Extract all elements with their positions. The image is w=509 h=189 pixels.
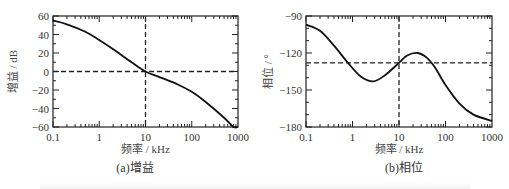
x-tick-label: 100 xyxy=(437,131,454,143)
phase-x-axis-label: 频率 / kHz xyxy=(375,142,424,155)
figure: 0.11101001000 6040200−20−40−60 频率 / kHz … xyxy=(0,0,509,189)
x-tick-label: 10 xyxy=(140,131,152,143)
gain-x-axis-label: 频率 / kHz xyxy=(121,142,170,155)
y-tick-label: −20 xyxy=(32,84,50,96)
y-tick-label: −60 xyxy=(32,121,50,133)
y-tick-label: −150 xyxy=(279,84,302,96)
y-tick-label: 40 xyxy=(38,29,50,41)
x-tick-label: 1000 xyxy=(481,131,504,143)
x-tick-label: 1 xyxy=(350,131,356,143)
gain-caption: (a)增益 xyxy=(116,161,153,175)
y-tick-label: 0 xyxy=(44,66,50,78)
y-tick-label: −180 xyxy=(279,121,302,133)
cropped-figure-caption xyxy=(40,182,470,189)
y-tick-label: −120 xyxy=(279,47,302,59)
phase-y-axis-label: 相位 / ° xyxy=(261,54,274,89)
y-tick-label: 60 xyxy=(38,10,50,22)
phase-reference-lines xyxy=(306,16,492,127)
y-tick-label: 20 xyxy=(38,47,50,59)
phase-caption: (b)相位 xyxy=(385,160,423,175)
x-tick-label: 10 xyxy=(394,131,406,143)
x-tick-label: 1000 xyxy=(227,131,250,143)
x-tick-label: 100 xyxy=(184,131,201,143)
y-tick-label: −40 xyxy=(32,103,50,115)
y-tick-label: −90 xyxy=(285,10,303,22)
gain-y-tick-labels: 6040200−20−40−60 xyxy=(32,10,50,133)
phase-plot: 0.11101001000 −90−120−150−180 频率 / kHz 相… xyxy=(261,10,504,175)
phase-y-tick-labels: −90−120−150−180 xyxy=(279,10,302,133)
gain-y-axis-label: 增益 / dB xyxy=(6,50,19,93)
x-tick-label: 1 xyxy=(97,131,103,143)
gain-plot: 0.11101001000 6040200−20−40−60 频率 / kHz … xyxy=(6,10,250,175)
gain-x-tick-labels: 0.11101001000 xyxy=(46,131,249,143)
phase-x-tick-labels: 0.11101001000 xyxy=(299,131,503,143)
